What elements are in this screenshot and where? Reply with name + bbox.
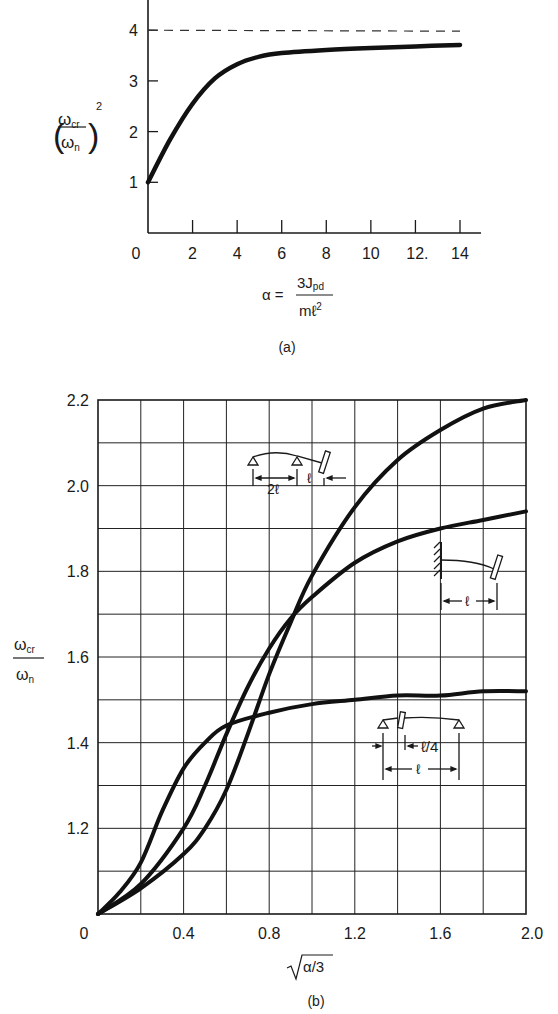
y-tick-label: 4 (129, 22, 138, 39)
caption-a: (a) (278, 339, 295, 355)
x-ticks-a: 024681012.14 (132, 220, 469, 262)
svg-text:ℓ: ℓ (465, 593, 470, 609)
svg-text:): ) (88, 116, 99, 154)
y-ticks-b: 1.21.41.61.82.02.2 (67, 392, 89, 837)
y-tick-label: 1.6 (67, 649, 89, 666)
svg-text:α/3: α/3 (303, 958, 324, 975)
y-axis-label-b: ωcr ωn (13, 636, 44, 685)
svg-text:ℓ/4: ℓ/4 (421, 738, 438, 755)
x-tick-label: 0 (80, 925, 89, 942)
x-tick-label: 2.0 (521, 925, 543, 942)
x-tick-label: 2 (188, 245, 197, 262)
x-tick-label: 1.2 (344, 925, 366, 942)
svg-text:ℓ: ℓ (416, 761, 421, 777)
svg-text:2: 2 (96, 100, 102, 112)
svg-text:ωn: ωn (61, 133, 80, 153)
diagram-two-span-overhang: 2ℓ ℓ (248, 451, 346, 497)
x-tick-label: 0.8 (258, 925, 280, 942)
diagram-cantilever: ℓ (434, 542, 503, 610)
y-tick-label: 1.2 (67, 820, 89, 837)
caption-b: (b) (307, 993, 324, 1009)
svg-text:α =: α = (262, 286, 284, 303)
x-axis-label-a: α = 3Jpd mℓ2 (262, 274, 333, 319)
x-tick-label: 14 (451, 245, 469, 262)
svg-text:2ℓ: 2ℓ (267, 481, 280, 497)
chart-a: 1234 024681012.14 ( ) ωcr ωn 2 α = 3Jpd … (53, 0, 481, 355)
y-tick-label: 1 (129, 174, 138, 191)
x-axis-label-b: α/3 (287, 955, 333, 979)
y-tick-label: 2.0 (67, 478, 89, 495)
x-ticks-b: 00.40.81.21.62.0 (80, 925, 544, 942)
y-tick-label: 2 (129, 124, 138, 141)
curve-a (148, 45, 460, 182)
y-axis-label-a: ( ) ωcr ωn 2 (53, 100, 102, 154)
y-ticks-a: 1234 (129, 22, 158, 191)
chart-b: 1.21.41.61.82.02.2 00.40.81.21.62.0 2ℓ ℓ (13, 392, 543, 1009)
x-tick-label: 4 (233, 245, 242, 262)
x-tick-label: 0 (132, 245, 141, 262)
x-tick-label: 1.6 (429, 925, 451, 942)
figure: 1234 024681012.14 ( ) ωcr ωn 2 α = 3Jpd … (0, 0, 558, 1014)
x-tick-label: 10 (362, 245, 380, 262)
grid-b (98, 400, 526, 914)
diagram-simply-supported-quarter-disk: ℓ/4 ℓ (372, 712, 464, 780)
x-tick-label: 12. (406, 245, 428, 262)
svg-text:3Jpd: 3Jpd (297, 274, 324, 292)
x-tick-label: 6 (277, 245, 286, 262)
svg-text:ωcr: ωcr (14, 636, 36, 655)
y-tick-label: 2.2 (67, 392, 89, 409)
x-tick-label: 0.4 (172, 925, 194, 942)
x-tick-label: 8 (322, 245, 331, 262)
svg-text:ℓ: ℓ (307, 470, 312, 486)
y-tick-label: 3 (129, 73, 138, 90)
asymptote-line (148, 30, 460, 31)
y-tick-label: 1.8 (67, 563, 89, 580)
y-tick-label: 1.4 (67, 735, 89, 752)
svg-text:ωn: ωn (16, 666, 34, 685)
svg-text:mℓ2: mℓ2 (299, 301, 322, 319)
